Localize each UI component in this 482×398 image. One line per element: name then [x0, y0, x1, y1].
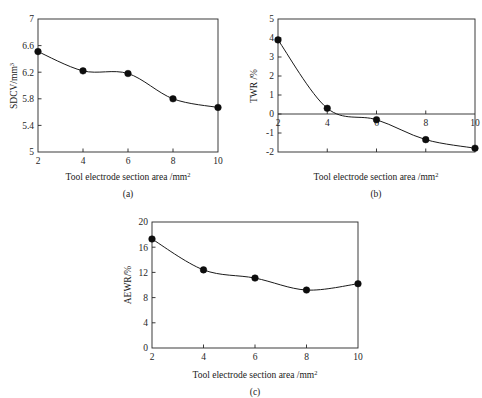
data-point [200, 267, 207, 274]
caption-a: (a) [123, 189, 134, 200]
chart-b-yticks: -2-1012345 [266, 14, 281, 157]
svg-text:0: 0 [143, 343, 148, 353]
svg-text:10: 10 [213, 156, 223, 166]
data-point [324, 105, 331, 112]
subplot-a: 55.45.86.26.67 246810 Tool electrode sec… [0, 0, 241, 200]
svg-text:1: 1 [269, 90, 274, 100]
data-series-points-a [35, 48, 222, 110]
data-point [149, 236, 156, 243]
svg-text:6: 6 [253, 352, 258, 362]
plot-frame-a [38, 19, 218, 152]
svg-text:8: 8 [143, 293, 148, 303]
chart-a-yticks: 55.45.86.26.67 [22, 14, 41, 157]
svg-text:5.4: 5.4 [22, 121, 34, 131]
svg-text:5: 5 [29, 147, 34, 157]
data-series-points-c [149, 236, 362, 294]
svg-text:8: 8 [423, 118, 428, 128]
svg-text:10: 10 [353, 352, 363, 362]
x-axis-title-c: Tool electrode section area /mm2 [193, 369, 318, 381]
svg-text:2: 2 [276, 118, 281, 128]
chart-a-xticks: 246810 [36, 149, 223, 167]
svg-text:6: 6 [126, 156, 131, 166]
data-point [80, 68, 87, 75]
x-axis-title-b: Tool electrode section area /mm2 [314, 171, 439, 183]
data-point [373, 116, 380, 123]
data-point [422, 136, 429, 143]
data-series-points-b [275, 37, 479, 152]
svg-text:0: 0 [269, 109, 274, 119]
svg-text:7: 7 [29, 14, 34, 24]
svg-text:10: 10 [470, 118, 480, 128]
svg-text:4: 4 [201, 352, 206, 362]
svg-text:5.8: 5.8 [22, 94, 34, 104]
svg-text:2: 2 [150, 352, 155, 362]
svg-text:4: 4 [325, 118, 330, 128]
chart-b: -2-1012345 246810 Tool electrode section… [241, 0, 482, 200]
svg-text:4: 4 [143, 318, 148, 328]
data-point [125, 70, 132, 77]
subplot-c: 048121620 246810 Tool electrode section … [114, 200, 374, 398]
y-axis-title-b: TWR /% [249, 69, 259, 103]
svg-text:4: 4 [269, 33, 274, 43]
chart-a-frame [38, 19, 218, 152]
data-series-line-c [152, 239, 358, 290]
svg-text:5: 5 [269, 14, 274, 24]
chart-a: 55.45.86.26.67 246810 Tool electrode sec… [0, 0, 241, 200]
x-axis-title-a: Tool electrode section area /mm2 [66, 171, 191, 183]
svg-text:2: 2 [269, 71, 274, 81]
chart-c: 048121620 246810 Tool electrode section … [114, 200, 374, 398]
chart-c-xticks: 246810 [150, 345, 363, 363]
y-axis-title-a: SDCV/mm3 [8, 63, 20, 109]
svg-text:20: 20 [139, 217, 149, 227]
data-series-line-a [38, 52, 218, 108]
svg-text:-2: -2 [266, 147, 274, 157]
data-point [215, 104, 222, 111]
svg-text:-1: -1 [266, 128, 274, 138]
svg-text:4: 4 [81, 156, 86, 166]
data-point [275, 37, 282, 44]
svg-text:3: 3 [269, 52, 274, 62]
data-point [252, 275, 259, 282]
data-point [170, 96, 177, 103]
svg-text:2: 2 [36, 156, 41, 166]
svg-text:6.2: 6.2 [22, 68, 34, 78]
subplot-b: -2-1012345 246810 Tool electrode section… [241, 0, 482, 200]
caption-b: (b) [370, 189, 381, 200]
data-point [355, 280, 362, 287]
svg-text:16: 16 [139, 243, 149, 253]
svg-text:12: 12 [139, 268, 149, 278]
figure-container: 55.45.86.26.67 246810 Tool electrode sec… [0, 0, 482, 398]
svg-text:8: 8 [304, 352, 309, 362]
caption-c: (c) [250, 387, 261, 398]
plot-frame-c [152, 222, 358, 348]
data-point [303, 287, 310, 294]
chart-c-frame [152, 222, 358, 348]
y-axis-title-c: AEWR/% [123, 266, 133, 305]
svg-text:6.6: 6.6 [22, 41, 34, 51]
data-point [472, 145, 479, 152]
data-point [35, 48, 42, 55]
svg-text:8: 8 [171, 156, 176, 166]
data-series-line-b [278, 40, 475, 148]
